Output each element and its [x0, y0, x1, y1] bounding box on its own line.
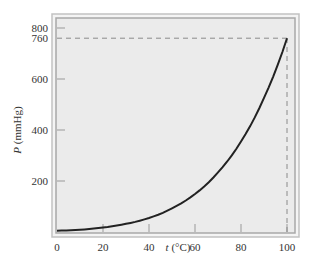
y-tick-label: 400	[32, 124, 49, 136]
x-tick-label: 80	[236, 241, 248, 253]
x-tick-label: 100	[279, 241, 296, 253]
y-tick-label: 760	[32, 32, 49, 44]
x-axis-label: t (°C)	[166, 241, 191, 254]
y-axis-label: P (mmHg)	[11, 106, 24, 155]
x-tick-label: 20	[98, 241, 110, 253]
y-tick-label: 800	[32, 22, 49, 34]
plot-area	[56, 18, 295, 233]
y-tick-label: 200	[32, 175, 49, 187]
x-tick-label: 40	[144, 241, 156, 253]
x-tick-label: 60	[190, 241, 202, 253]
y-tick-label: 600	[32, 73, 49, 85]
vapor-pressure-chart: 020406080100200400600760800 t (°C) P (mm…	[0, 0, 322, 277]
x-tick-label: 0	[54, 241, 60, 253]
